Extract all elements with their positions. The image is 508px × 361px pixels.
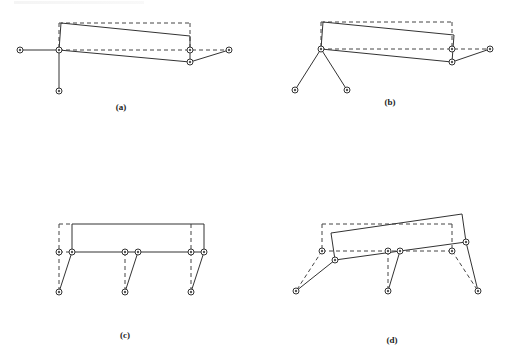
joint-center: [58, 90, 60, 92]
panel-b: [292, 22, 493, 93]
joint-center: [58, 251, 60, 253]
joint-center: [489, 48, 491, 50]
link: [462, 214, 466, 242]
panel-d: [293, 214, 481, 294]
link: [190, 50, 229, 62]
link: [466, 242, 478, 291]
panel-a: [17, 23, 232, 94]
link: [388, 251, 400, 291]
joint-center: [295, 290, 297, 292]
joint-center: [465, 241, 467, 243]
panel-label-c: (c): [120, 330, 130, 340]
joint-center: [321, 250, 323, 252]
link: [191, 252, 204, 292]
link: [295, 49, 321, 90]
joint-center: [137, 251, 139, 253]
joint-center: [387, 250, 389, 252]
reference-link: [452, 251, 478, 291]
link: [323, 22, 454, 35]
link: [61, 23, 190, 36]
link: [400, 242, 466, 251]
joint-center: [320, 48, 322, 50]
link: [452, 49, 490, 62]
panel-c: [56, 224, 207, 295]
joint-center: [451, 250, 453, 252]
joint-center: [451, 61, 453, 63]
joint-center: [190, 251, 192, 253]
link: [125, 252, 138, 292]
joint-center: [189, 49, 191, 51]
joint-center: [334, 259, 336, 261]
mechanism-diagram: [0, 0, 508, 361]
panel-label-b: (b): [385, 97, 396, 107]
joint-center: [189, 61, 191, 63]
reference-link: [296, 251, 322, 291]
joint-center: [399, 250, 401, 252]
panel-label-a: (a): [116, 102, 127, 112]
joint-center: [451, 48, 453, 50]
link: [59, 23, 61, 50]
link: [321, 49, 347, 90]
joint-center: [71, 251, 73, 253]
joint-center: [294, 89, 296, 91]
joint-center: [58, 291, 60, 293]
link: [331, 233, 335, 260]
joint-center: [228, 49, 230, 51]
joint-center: [387, 290, 389, 292]
joint-center: [124, 251, 126, 253]
joint-center: [58, 49, 60, 51]
joint-center: [190, 291, 192, 293]
link: [321, 22, 323, 49]
link: [59, 252, 72, 292]
joint-center: [124, 291, 126, 293]
joint-center: [19, 49, 21, 51]
joint-center: [203, 251, 205, 253]
link: [296, 260, 335, 291]
joint-center: [346, 89, 348, 91]
figure: (a) (b) (c) (d): [0, 0, 508, 361]
link: [59, 50, 190, 62]
link: [321, 49, 452, 62]
panel-label-d: (d): [387, 335, 398, 345]
joint-center: [477, 290, 479, 292]
